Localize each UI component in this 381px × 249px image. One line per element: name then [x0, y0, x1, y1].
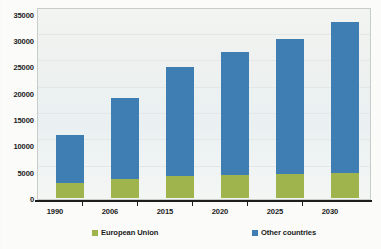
bar-group-2015[interactable]: [166, 7, 194, 199]
y-tick-label-10000: 10000: [0, 143, 34, 151]
y-tick-label-25000: 25000: [0, 64, 34, 72]
y-axis: 35000 30000 25000 20000 15000 10000 5000…: [0, 0, 34, 249]
bar-group-2030[interactable]: [331, 7, 359, 199]
y-tick-label-30000: 30000: [0, 38, 34, 46]
x-tick-label-1990: 1990: [31, 207, 79, 216]
bar-segment-other-countries-2015[interactable]: [166, 67, 194, 176]
plot-area: [37, 8, 371, 200]
legend-swatch-icon-other-countries: [252, 230, 258, 236]
bar-group-2025[interactable]: [276, 7, 304, 199]
x-tick-mark-4: [247, 202, 248, 206]
legend-entry-other-countries[interactable]: Other countries: [252, 228, 316, 237]
bar-segment-other-countries-2020[interactable]: [221, 52, 249, 175]
bar-segment-other-countries-2006[interactable]: [111, 98, 139, 180]
legend-entry-european-union[interactable]: European Union: [92, 228, 158, 237]
legend-label-european-union: European Union: [101, 228, 158, 237]
x-tick-label-2015: 2015: [141, 207, 189, 216]
x-tick-label-2020: 2020: [196, 207, 244, 216]
x-tick-mark-5: [302, 202, 303, 206]
y-tick-label-0: 0: [0, 196, 34, 204]
legend-label-other-countries: Other countries: [261, 228, 316, 237]
x-tick-mark-3: [192, 202, 193, 206]
x-tick-mark-2: [137, 202, 138, 206]
x-tick-label-2006: 2006: [86, 207, 134, 216]
bar-group-2006[interactable]: [111, 7, 139, 199]
chart-legend: European Union Other countries: [0, 228, 381, 244]
y-tick-label-5000: 5000: [0, 170, 34, 178]
bar-group-2020[interactable]: [221, 7, 249, 199]
bar-segment-european-union-2020[interactable]: [221, 175, 249, 198]
bar-segment-other-countries-2030[interactable]: [331, 22, 359, 173]
chart-screenshot: 35000 30000 25000 20000 15000 10000 5000…: [0, 0, 381, 249]
bar-segment-other-countries-1990[interactable]: [56, 135, 84, 183]
x-tick-mark-1: [82, 202, 83, 206]
bar-segment-other-countries-2025[interactable]: [276, 39, 304, 174]
bar-segment-european-union-2015[interactable]: [166, 176, 194, 198]
y-tick-label-35000: 35000: [0, 12, 34, 20]
x-axis-line: [35, 200, 372, 202]
y-tick-label-20000: 20000: [0, 91, 34, 99]
bar-segment-european-union-2030[interactable]: [331, 173, 359, 198]
bar-segment-european-union-2025[interactable]: [276, 174, 304, 198]
x-tick-label-2025: 2025: [251, 207, 299, 216]
bar-group-1990[interactable]: [56, 7, 84, 199]
bar-segment-european-union-1990[interactable]: [56, 183, 84, 198]
y-tick-label-15000: 15000: [0, 117, 34, 125]
bars-layer: [38, 9, 370, 199]
legend-swatch-icon-european-union: [92, 230, 98, 236]
bar-segment-european-union-2006[interactable]: [111, 179, 139, 198]
x-tick-label-2030: 2030: [306, 207, 354, 216]
